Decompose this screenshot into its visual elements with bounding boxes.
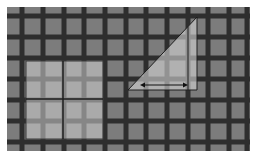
square-body bbox=[26, 61, 103, 139]
translucent-square bbox=[26, 61, 103, 139]
grid-figure bbox=[0, 0, 256, 159]
